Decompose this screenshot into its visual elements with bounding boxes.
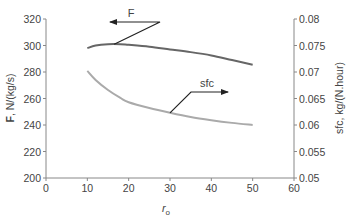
y-left-tick-label: 200 — [23, 172, 41, 184]
y-left-tick-label: 300 — [23, 40, 41, 52]
y-left-tick-label: 320 — [23, 13, 41, 25]
y-right-tick-label: 0.05 — [299, 172, 320, 184]
y-left-tick-label: 280 — [23, 66, 41, 78]
x-tick-label: 50 — [247, 182, 259, 194]
y-right-axis-label: sfc, kg/(N.hour) — [333, 62, 345, 134]
y-right-tick-label: 0.065 — [299, 93, 325, 105]
series — [87, 44, 252, 125]
y-left-tick-label: 260 — [23, 93, 41, 105]
x-tick-label: 0 — [43, 182, 49, 194]
y-left-tick-label: 220 — [23, 146, 41, 158]
x-tick-label: 30 — [164, 182, 176, 194]
y-right-tick-label: 0.075 — [299, 40, 325, 52]
x-tick-label: 40 — [205, 182, 217, 194]
y-left-axis-label: F, N/(kg/s) — [4, 73, 16, 122]
y-right-tick-label: 0.055 — [299, 146, 325, 158]
f-annotation-arrow — [110, 22, 160, 44]
y-right-tick-label: 0.08 — [299, 13, 320, 25]
chart: 01020304050602002202402602803003200.050.… — [0, 0, 352, 218]
sfc-annotation-arrow — [170, 92, 228, 113]
series-line-sfc — [87, 71, 252, 125]
sfc-annotation-label: sfc — [200, 77, 215, 89]
annotations: Fsfc — [110, 7, 228, 113]
y-left-tick-label: 240 — [23, 119, 41, 131]
axes: 01020304050602002202402602803003200.050.… — [23, 13, 325, 194]
y-right-tick-label: 0.06 — [299, 119, 320, 131]
x-tick-label: 10 — [81, 182, 93, 194]
f-annotation-label: F — [128, 7, 135, 19]
y-right-tick-label: 0.07 — [299, 66, 320, 78]
x-tick-label: 20 — [123, 182, 135, 194]
series-line-f — [87, 44, 252, 65]
x-axis-label: ro — [162, 202, 171, 217]
